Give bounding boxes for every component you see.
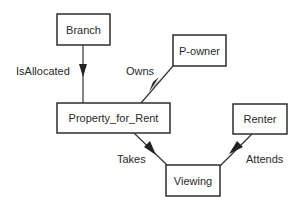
relationship-takes: Takes <box>117 133 167 165</box>
attends-label: Attends <box>246 153 284 165</box>
arrowhead-down-right-icon <box>144 141 156 155</box>
entity-label: P-owner <box>179 45 220 57</box>
entity-label: Viewing <box>174 175 212 187</box>
relationship-owns: Owns <box>126 65 173 103</box>
entity-renter[interactable]: Renter <box>233 104 287 134</box>
entity-label: Renter <box>243 113 276 125</box>
arrowhead-down-left-icon <box>229 141 243 154</box>
entity-branch[interactable]: Branch <box>57 14 110 45</box>
relationship-isallocated: IsAllocated <box>16 45 87 103</box>
arrowhead-down-icon <box>79 64 87 77</box>
entity-viewing[interactable]: Viewing <box>166 165 220 196</box>
entity-property-for-rent[interactable]: Property_for_Rent <box>57 103 170 133</box>
entity-label: Property_for_Rent <box>69 112 159 124</box>
relationship-attends: Attends <box>220 134 284 166</box>
entity-p-owner[interactable]: P-owner <box>173 35 226 66</box>
er-diagram: IsAllocated Owns Takes Attends Branch P-… <box>0 0 303 205</box>
owns-label: Owns <box>126 65 155 77</box>
entity-label: Branch <box>66 24 101 36</box>
isallocated-label: IsAllocated <box>16 65 70 77</box>
takes-label: Takes <box>117 153 146 165</box>
